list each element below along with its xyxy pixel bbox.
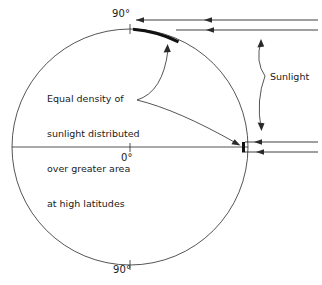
north-pole-label: 90°	[112, 8, 130, 19]
arrow-left-icon	[256, 149, 264, 155]
arrow-left-icon	[136, 17, 144, 23]
arrow-left-icon	[206, 27, 214, 33]
annotation-text-block: Equal density of sunlight distributed ov…	[47, 70, 140, 232]
sunlight-label: Sunlight	[270, 71, 309, 82]
arrow-left-icon	[204, 17, 212, 23]
sunlight-leader-lower	[259, 76, 265, 128]
arrow-up-icon	[164, 44, 171, 53]
arrow-right-icon	[231, 139, 240, 145]
arrow-up-icon	[257, 39, 264, 48]
annotation-line-3: over greater area	[47, 163, 140, 175]
arrow-left-icon	[254, 139, 262, 145]
high-latitude-illuminated-arc	[133, 29, 179, 42]
annotation-line-4: at high latitudes	[47, 198, 140, 210]
annotation-leader-to-patch	[137, 100, 236, 143]
annotation-line-2: sunlight distributed	[47, 128, 140, 140]
sunlight-latitude-diagram: 90° 0° 90° Equal density of sunlight dis…	[0, 0, 322, 285]
annotation-line-1: Equal density of	[47, 93, 140, 105]
annotation-leader-to-arc	[137, 50, 168, 100]
south-pole-label: 90°	[113, 264, 131, 275]
arrow-down-icon	[258, 122, 265, 131]
